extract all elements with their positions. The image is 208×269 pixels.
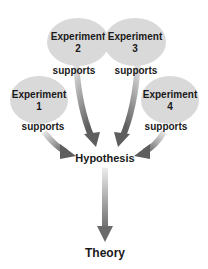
experiment-1-node: Experiment 1 <box>10 76 68 124</box>
arrow-exp1-to-hypothesis <box>44 132 76 159</box>
experiment-1-ellipse <box>10 76 68 124</box>
experiment-4-supports-label: supports <box>145 121 188 132</box>
experiment-2-ellipse <box>47 18 109 66</box>
experiment-3-node: Experiment 3 <box>104 18 166 66</box>
experiment-1-number: 1 <box>36 101 42 112</box>
experiment-4-number: 4 <box>167 101 173 112</box>
experiment-4-title: Experiment <box>143 89 198 100</box>
experiment-3-number: 3 <box>132 43 138 54</box>
experiment-3-title: Experiment <box>108 31 163 42</box>
experiment-1-title: Experiment <box>12 89 67 100</box>
experiment-4-node: Experiment 4 <box>141 76 199 124</box>
hypothesis-label: Hypothesis <box>75 152 134 164</box>
experiment-2-node: Experiment 2 <box>47 18 109 66</box>
diagram-canvas: Experiment 2 supports Experiment 3 suppo… <box>0 0 208 269</box>
arrow-exp4-to-hypothesis <box>134 132 164 159</box>
experiment-4-ellipse <box>141 76 199 124</box>
experiment-2-title: Experiment <box>51 31 106 42</box>
theory-label: Theory <box>85 246 125 260</box>
arrow-hypothesis-to-theory <box>97 168 113 242</box>
experiment-1-supports-label: supports <box>22 121 65 132</box>
experiment-2-number: 2 <box>75 43 81 54</box>
experiment-2-supports-label: supports <box>53 65 96 76</box>
experiment-3-ellipse <box>104 18 166 66</box>
experiment-3-supports-label: supports <box>115 65 158 76</box>
